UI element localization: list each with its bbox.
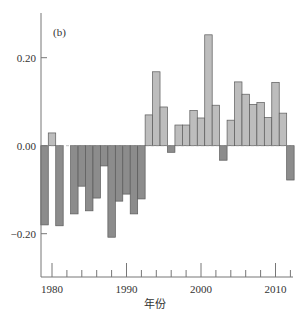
x-axis-ticks: 1980199020002010 xyxy=(41,263,290,295)
x-tick-label: 1990 xyxy=(116,283,139,295)
bar-1980 xyxy=(48,133,55,146)
bar-1990 xyxy=(123,146,130,194)
bar-2000 xyxy=(197,118,204,146)
bar-2004 xyxy=(227,120,234,146)
bar-1989 xyxy=(115,146,122,201)
anomaly-bar-chart: 0.200.00−0.20 1980199020002010 (b) 年份 xyxy=(0,0,303,324)
bar-1985 xyxy=(86,146,93,211)
bar-1979 xyxy=(41,146,48,225)
bar-1994 xyxy=(153,72,160,146)
bar-2010 xyxy=(272,82,279,145)
x-tick-label: 2010 xyxy=(265,283,288,295)
bar-1995 xyxy=(160,107,167,146)
bar-1991 xyxy=(130,146,137,214)
bar-1984 xyxy=(78,146,85,186)
bar-1981 xyxy=(56,146,63,226)
bar-2003 xyxy=(220,146,227,161)
bar-2012 xyxy=(287,146,294,180)
bar-2006 xyxy=(242,94,249,145)
bar-1992 xyxy=(138,146,145,199)
bar-2007 xyxy=(249,104,256,145)
bar-2002 xyxy=(212,105,219,145)
panel-label: (b) xyxy=(53,26,66,39)
y-tick-label: −0.20 xyxy=(11,228,37,240)
y-tick-label: 0.00 xyxy=(17,140,37,152)
bar-1993 xyxy=(145,115,152,146)
bar-2001 xyxy=(205,35,212,146)
bars-group xyxy=(41,35,294,237)
bar-1998 xyxy=(182,125,189,146)
x-tick-label: 1980 xyxy=(41,283,64,295)
x-tick-label: 2000 xyxy=(190,283,213,295)
bar-1983 xyxy=(71,146,78,214)
bar-2009 xyxy=(264,118,271,146)
bar-1996 xyxy=(167,146,174,153)
bar-2011 xyxy=(279,113,286,146)
bar-1997 xyxy=(175,125,182,146)
y-tick-label: 0.20 xyxy=(17,52,37,64)
bar-1986 xyxy=(93,146,100,198)
bar-2008 xyxy=(257,103,264,146)
bar-1988 xyxy=(108,146,115,238)
x-axis-title: 年份 xyxy=(144,297,166,311)
bar-1999 xyxy=(190,111,197,146)
bar-2005 xyxy=(235,82,242,146)
bar-1987 xyxy=(100,146,107,166)
